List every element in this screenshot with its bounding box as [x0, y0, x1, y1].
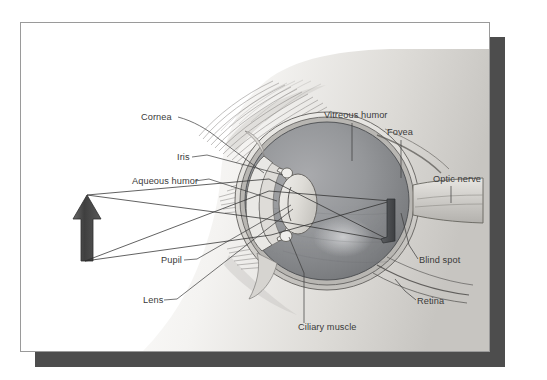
eye-anatomy-figure: Cornea Iris Aqueous humor Pupil Lens Cil…: [21, 23, 489, 351]
label-aqueous-humor: Aqueous humor: [132, 176, 198, 186]
label-iris: Iris: [177, 152, 190, 162]
label-lens: Lens: [143, 295, 164, 305]
label-ciliary-muscle: Ciliary muscle: [298, 322, 357, 332]
label-blind-spot: Blind spot: [419, 255, 461, 265]
label-cornea: Cornea: [141, 112, 173, 122]
label-fovea: Fovea: [387, 127, 414, 137]
label-vitreous-humor: Vitreous humor: [324, 110, 388, 120]
label-optic-nerve: Optic nerve: [433, 174, 481, 184]
object-arrow: [73, 195, 101, 261]
label-pupil: Pupil: [161, 255, 182, 265]
figure-plate: Cornea Iris Aqueous humor Pupil Lens Cil…: [20, 22, 490, 352]
figure-page: Cornea Iris Aqueous humor Pupil Lens Cil…: [0, 0, 547, 380]
optic-nerve-structure: [413, 178, 483, 223]
label-retina: Retina: [417, 296, 445, 306]
